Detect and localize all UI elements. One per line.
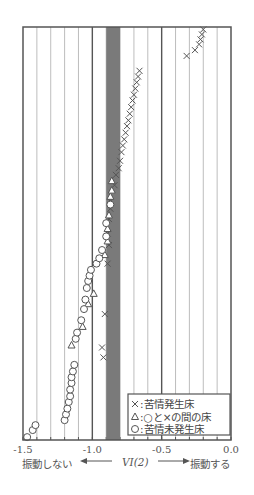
circle-marker-icon xyxy=(103,233,110,240)
legend-item-label: :苦情未発生床 xyxy=(140,423,205,435)
cross-marker-icon xyxy=(132,86,138,92)
circle-marker-icon xyxy=(132,426,139,433)
cross-marker-icon xyxy=(135,74,141,80)
circle-marker-icon xyxy=(32,422,39,429)
circle-marker-icon xyxy=(78,317,85,324)
circle-marker-icon xyxy=(99,247,106,254)
circle-marker-icon xyxy=(87,266,94,273)
circle-marker-icon xyxy=(67,393,74,400)
legend: :苦情発生床:○と×の間の床:苦情未発生床 xyxy=(128,394,230,435)
circle-marker-icon xyxy=(81,306,88,313)
chart-plot: -1.5-1.0-0.50.0 :苦情発生床:○と×の間の床:苦情未発生床 xyxy=(0,0,254,495)
cross-marker-icon xyxy=(192,47,198,53)
x-tick-labels: -1.5-1.0-0.50.0 xyxy=(13,444,239,455)
circle-marker-icon xyxy=(107,201,114,208)
cross-marker-icon xyxy=(123,130,129,136)
arrow-right-icon xyxy=(158,455,190,469)
xlabel-left: 振動しない xyxy=(22,456,72,471)
legend-item-label: :苦情発生床 xyxy=(140,398,195,410)
x-tick-label: -0.5 xyxy=(152,444,171,455)
cross-marker-icon xyxy=(99,344,105,350)
plot-frame xyxy=(23,27,231,440)
arrow-left-icon xyxy=(80,455,112,469)
triangle-marker-icon xyxy=(90,290,97,297)
cross-marker-icon xyxy=(127,111,133,117)
circle-marker-icon xyxy=(83,285,90,292)
cross-marker-icon xyxy=(196,41,202,47)
cross-marker-icon xyxy=(120,143,126,149)
cross-marker-icon xyxy=(128,104,134,110)
cross-marker-icon xyxy=(124,123,130,129)
circle-marker-icon xyxy=(69,368,76,375)
x-tick-label: -1.0 xyxy=(83,444,102,455)
circle-marker-icon xyxy=(74,329,81,336)
cross-marker-icon xyxy=(199,31,205,37)
circle-marker-icon xyxy=(67,386,74,393)
legend-item-label: :○と×の間の床 xyxy=(140,411,212,423)
circle-marker-icon xyxy=(64,405,71,412)
cross-marker-icon xyxy=(130,98,136,104)
cross-marker-icon xyxy=(197,36,203,42)
circle-marker-icon xyxy=(82,296,89,303)
cross-marker-icon xyxy=(136,68,142,74)
cross-marker-icon xyxy=(134,79,140,85)
cross-marker-icon xyxy=(100,354,106,360)
circle-marker-icon xyxy=(96,255,103,262)
circle-marker-icon xyxy=(103,220,110,227)
cross-marker-icon xyxy=(121,136,127,142)
xlabel-right: 振動する xyxy=(190,456,230,471)
cross-marker-icon xyxy=(184,53,190,59)
x-tick-label: 0.0 xyxy=(223,444,239,455)
xlabel: VI(2) xyxy=(122,456,149,468)
cross-marker-icon xyxy=(125,117,131,123)
x-tick-label: -1.5 xyxy=(13,444,32,455)
circle-marker-icon xyxy=(71,361,78,368)
grid-lines xyxy=(23,27,231,440)
triangle-marker-icon xyxy=(68,342,75,349)
